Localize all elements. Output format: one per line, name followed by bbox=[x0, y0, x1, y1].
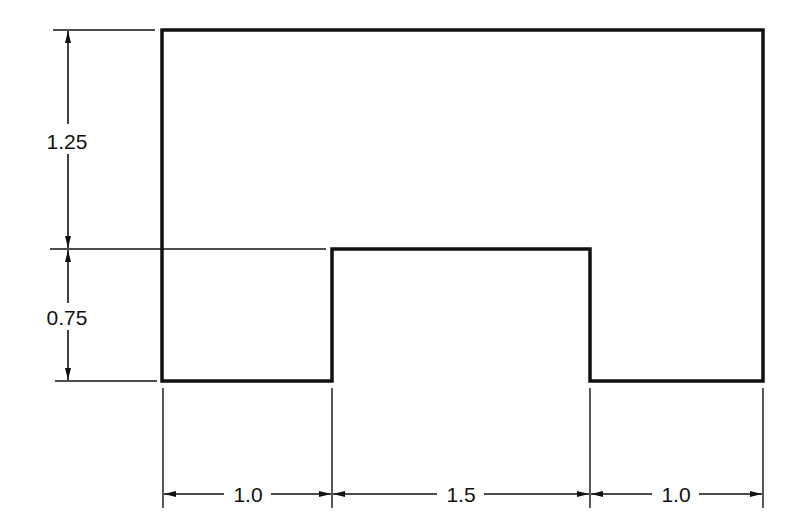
technical-drawing: 1.25 0.75 1.0 1.5 1. bbox=[0, 0, 800, 532]
dimension-label-upper-height: 1.25 bbox=[47, 130, 88, 153]
drawing-svg: 1.25 0.75 1.0 1.5 1. bbox=[0, 0, 800, 532]
vertical-extension-lines bbox=[50, 30, 326, 381]
part-outline bbox=[162, 30, 763, 381]
dimension-label-notch-width: 1.5 bbox=[446, 483, 475, 506]
dimension-label-left-leg-width: 1.0 bbox=[233, 483, 262, 506]
dimension-label-right-leg-width: 1.0 bbox=[661, 483, 690, 506]
dimension-label-notch-height: 0.75 bbox=[47, 306, 88, 329]
